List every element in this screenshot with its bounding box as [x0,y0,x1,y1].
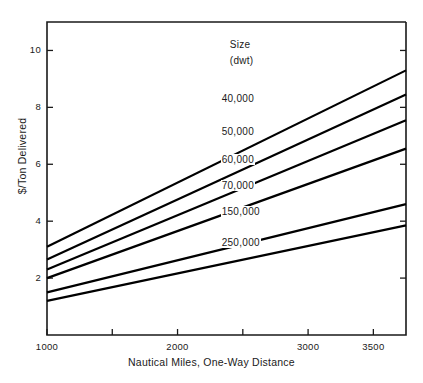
series-label-60000: 60,000 [221,154,255,165]
legend-heading: Size [230,39,251,50]
series-label-40000: 40,000 [221,93,255,104]
axis-frame [47,22,406,335]
series-label-70000: 70,000 [221,180,255,191]
y-axis-title: $/Ton Delivered [16,86,28,226]
x-tick-1000: 1000 [33,341,61,352]
plot-area [0,0,423,383]
series-label-50000: 50,000 [221,126,255,137]
y-tick-2: 2 [13,272,41,283]
y-tick-10: 10 [13,44,41,55]
x-tick-2000: 2000 [164,341,192,352]
x-tick-3000: 3000 [294,341,322,352]
series-label-250000: 250,000 [221,237,261,248]
x-tick-3500: 3500 [359,341,387,352]
legend-subheading: (dwt) [230,55,254,66]
chart-figure: 246810 1000200030003500 40,00050,00060,0… [0,0,423,383]
series-line-50000 [47,95,406,260]
x-axis-title: Nautical Miles, One-Way Distance [0,356,423,368]
series-label-150000: 150,000 [221,206,261,217]
